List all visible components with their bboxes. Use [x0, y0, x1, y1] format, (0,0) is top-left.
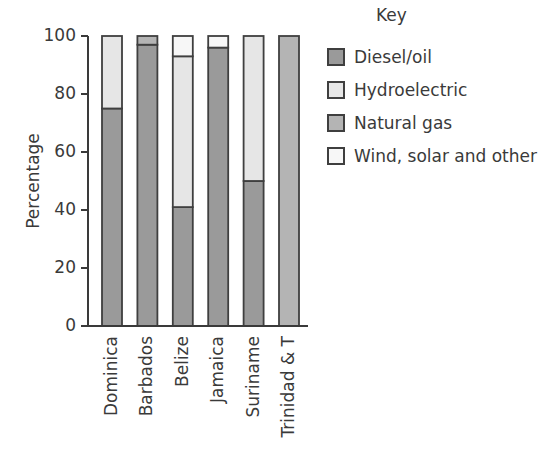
bar-segment-hydroelectric — [173, 56, 193, 207]
bar-segment-diesel-oil — [173, 207, 193, 326]
y-axis-title: Percentage — [23, 133, 43, 229]
bar-segment-hydroelectric — [102, 36, 122, 109]
y-tick-label: 0 — [65, 315, 76, 335]
legend-items: Diesel/oilHydroelectricNatural gasWind, … — [327, 40, 537, 172]
y-tick-label: 60 — [54, 141, 76, 161]
bars — [102, 36, 299, 326]
bar-segment-wind-solar-and-other — [173, 36, 193, 56]
bar-barbados — [137, 36, 157, 326]
bar-dominica — [102, 36, 122, 326]
x-category-label: Suriname — [243, 336, 263, 418]
bar-segment-hydroelectric — [244, 36, 264, 181]
bar-belize — [173, 36, 193, 326]
x-category-label: Dominica — [101, 336, 121, 416]
bar-segment-diesel-oil — [208, 48, 228, 326]
x-category-label: Belize — [172, 336, 192, 387]
y-tick-label: 80 — [54, 83, 76, 103]
legend-label: Wind, solar and other — [354, 146, 537, 166]
y-axis: 020406080100 — [44, 25, 88, 335]
legend: Key Diesel/oilHydroelectricNatural gasWi… — [327, 4, 537, 172]
y-tick-label: 100 — [44, 25, 76, 45]
legend-label: Natural gas — [354, 113, 452, 133]
legend-item: Hydroelectric — [327, 73, 537, 106]
legend-swatch — [327, 147, 345, 165]
y-tick-label: 40 — [54, 199, 76, 219]
bar-segment-diesel-oil — [244, 181, 264, 326]
legend-item: Diesel/oil — [327, 40, 537, 73]
x-category-label: Barbados — [136, 336, 156, 416]
legend-item: Natural gas — [327, 106, 537, 139]
x-category-label: Jamaica — [207, 336, 227, 404]
legend-title: Key — [376, 4, 537, 26]
bar-suriname — [244, 36, 264, 326]
bar-jamaica — [208, 36, 228, 326]
bar-trinidad-t — [279, 36, 299, 326]
legend-item: Wind, solar and other — [327, 139, 537, 172]
bar-segment-natural-gas — [137, 36, 157, 45]
legend-label: Hydroelectric — [354, 80, 467, 100]
bar-segment-natural-gas — [279, 36, 299, 326]
legend-swatch — [327, 81, 345, 99]
legend-swatch — [327, 114, 345, 132]
y-tick-label: 20 — [54, 257, 76, 277]
x-axis: DominicaBarbadosBelizeJamaicaSurinameTri… — [88, 326, 308, 439]
bar-segment-wind-solar-and-other — [208, 36, 228, 48]
legend-swatch — [327, 48, 345, 66]
legend-label: Diesel/oil — [354, 47, 432, 67]
x-category-label: Trinidad & T — [278, 335, 298, 438]
bar-segment-diesel-oil — [102, 109, 122, 327]
bar-segment-diesel-oil — [137, 45, 157, 326]
